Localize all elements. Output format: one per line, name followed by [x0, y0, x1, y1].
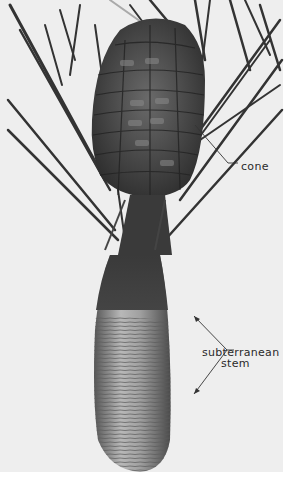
- cycad-photograph: [0, 0, 291, 481]
- subterranean-stem: [94, 255, 171, 472]
- label-cone: cone: [241, 161, 269, 172]
- label-stem: stem: [221, 358, 250, 369]
